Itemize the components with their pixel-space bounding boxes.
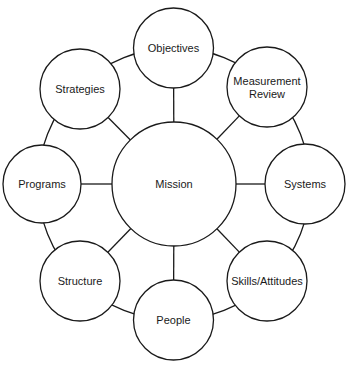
node-structure: Structure	[40, 241, 120, 321]
mission-diagram: ObjectivesMeasurementReviewSystemsSkills…	[0, 0, 348, 368]
people-label: People	[156, 314, 190, 326]
objectives-label: Objectives	[148, 42, 200, 54]
strategies-label: Strategies	[55, 83, 105, 95]
spoke-measurement-review	[217, 116, 239, 139]
center-node-mission: Mission	[112, 122, 236, 246]
node-programs: Programs	[3, 145, 81, 223]
skills-attitudes-label: Skills/Attitudes	[231, 275, 303, 287]
spoke-skills-attitudes	[217, 229, 239, 252]
mission-label: Mission	[155, 178, 192, 190]
measurement-review-label: Measurement	[233, 75, 300, 87]
systems-label: Systems	[284, 178, 327, 190]
structure-label: Structure	[58, 275, 103, 287]
node-skills-attitudes: Skills/Attitudes	[227, 241, 307, 321]
node-people: People	[134, 280, 214, 360]
node-measurement-review: MeasurementReview	[227, 47, 307, 127]
node-systems: Systems	[265, 144, 345, 224]
node-strategies: Strategies	[40, 49, 120, 129]
spoke-structure	[108, 229, 131, 253]
programs-label: Programs	[18, 178, 66, 190]
measurement-review-label: Review	[249, 88, 285, 100]
node-objectives: Objectives	[134, 8, 214, 88]
spoke-strategies	[108, 117, 130, 139]
